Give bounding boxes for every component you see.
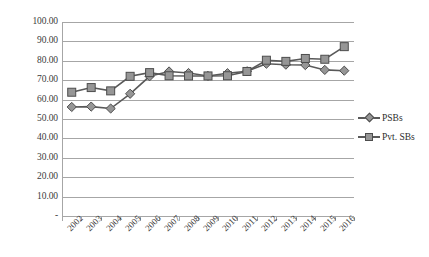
- y-axis-tick-label: 50.00: [2, 113, 58, 123]
- legend-item-label: PSBs: [382, 113, 403, 123]
- x-axis-tick: [62, 217, 63, 221]
- plot-area: [62, 22, 354, 216]
- square-marker-icon: [358, 132, 380, 142]
- data-point-marker: [107, 87, 115, 95]
- data-point-marker: [223, 72, 231, 80]
- data-point-marker: [87, 102, 96, 111]
- data-point-marker: [87, 84, 95, 92]
- y-axis-tick-label: 100.00: [2, 16, 58, 26]
- y-axis-tick-label: -: [2, 210, 58, 220]
- legend-item-psbs[interactable]: PSBs: [358, 108, 415, 127]
- series-line-pvt-sbs: [72, 47, 345, 93]
- line-chart: 100.0090.0080.0070.0060.0050.0040.0030.0…: [0, 0, 429, 257]
- x-axis-labels: 2002200320042005200620072008200920102011…: [62, 224, 392, 257]
- data-point-marker: [340, 43, 348, 51]
- y-axis-tick-label: 40.00: [2, 132, 58, 142]
- data-point-marker: [68, 88, 76, 96]
- y-axis-tick-label: 90.00: [2, 35, 58, 45]
- legend-item-pvt-sbs[interactable]: Pvt. SBs: [358, 127, 415, 146]
- data-point-marker: [165, 72, 173, 80]
- series-line-psbs: [72, 64, 345, 109]
- y-axis-tick-label: 10.00: [2, 191, 58, 201]
- y-axis-labels: 100.0090.0080.0070.0060.0050.0040.0030.0…: [0, 0, 58, 240]
- data-point-marker: [320, 65, 329, 74]
- data-point-marker: [126, 72, 134, 80]
- y-axis-tick-label: 60.00: [2, 94, 58, 104]
- series-layer: [62, 22, 354, 216]
- y-axis-tick-label: 80.00: [2, 55, 58, 65]
- data-point-marker: [204, 72, 212, 80]
- data-point-marker: [282, 57, 290, 65]
- data-point-marker: [146, 69, 154, 77]
- chart-legend: PSBsPvt. SBs: [358, 108, 415, 146]
- data-point-marker: [301, 54, 309, 62]
- diamond-marker-icon: [358, 113, 380, 123]
- y-axis-tick-label: 20.00: [2, 171, 58, 181]
- y-axis-tick-label: 70.00: [2, 74, 58, 84]
- y-axis-tick-label: 30.00: [2, 152, 58, 162]
- data-point-marker: [262, 56, 270, 64]
- data-point-marker: [243, 67, 251, 75]
- data-point-marker: [67, 102, 76, 111]
- data-point-marker: [185, 72, 193, 80]
- legend-item-label: Pvt. SBs: [382, 132, 415, 142]
- data-point-marker: [321, 55, 329, 63]
- data-point-marker: [340, 66, 349, 75]
